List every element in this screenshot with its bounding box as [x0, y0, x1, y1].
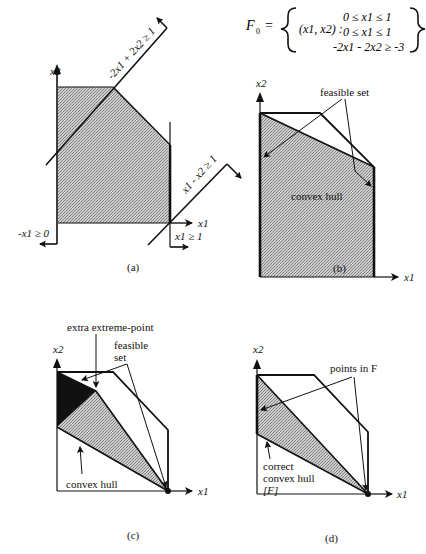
region-a — [58, 87, 170, 223]
caption-a: (a) — [127, 261, 140, 274]
formula-equals: = — [265, 18, 273, 33]
formula-constraint-1: 0 ≤ x1 ≤ 1 — [343, 10, 392, 24]
constraint-label-neg-x1: -x1 ≥ 0 — [18, 227, 50, 239]
left-brace-icon — [281, 8, 296, 52]
panel-b: x2 x1 feasible set convex hull (b) — [255, 77, 414, 283]
panel-a: x2 -x1 ≥ 0 x1 ≥ 1 x1 -2x1 + 2x2 ≥ 1 x1 -… — [18, 18, 241, 274]
label-convex-hull-c: convex hull — [66, 478, 118, 490]
label-convex-hull-b: convex hull — [291, 190, 343, 202]
caption-d: (d) — [325, 532, 338, 545]
panel-c: x2 x1 extra extreme-point feasible set c… — [52, 321, 208, 542]
constraint-label-x1-ge-1: x1 ≥ 1 — [174, 230, 202, 242]
formula-lhs-sub: 0 — [256, 27, 260, 36]
formula-f0: F 0 = (x1, x2) : 0 ≤ x1 ≤ 1 0 ≤ x1 ≤ 1 -… — [245, 8, 425, 54]
right-brace-icon — [410, 8, 425, 52]
formula-lhs: F — [245, 18, 255, 33]
constraint-label-diag: -2x1 + 2x2 ≥ 1 — [105, 25, 158, 82]
figure-canvas: F 0 = (x1, x2) : 0 ≤ x1 ≤ 1 0 ≤ x1 ≤ 1 -… — [0, 0, 426, 554]
formula-constraint-3: -2x1 - 2x2 ≥ -3 — [333, 40, 404, 54]
label-feasible-set-b: feasible set — [320, 86, 369, 98]
axis-label-x1-c: x1 — [197, 485, 208, 497]
arrow-up-icon — [256, 92, 264, 102]
constraint-label-x1-minus-x2: x1 - x2 ≥ 1 — [178, 152, 219, 196]
label-correct-1: correct — [263, 460, 294, 472]
axis-label-x1-b: x1 — [403, 271, 414, 283]
panel-d: x2 x1 points in F correct convex hull [F… — [252, 343, 407, 545]
axis-label-x2-b: x2 — [255, 77, 267, 89]
axis-label-x2-a: x2 — [49, 65, 61, 77]
label-correct-3: [F] — [263, 484, 278, 496]
axis-label-x1-a: x1 — [197, 217, 208, 229]
caption-c: (c) — [127, 529, 140, 542]
caption-b: (b) — [333, 262, 346, 275]
formula-var-tuple: (x1, x2) : — [299, 22, 343, 36]
label-points-in-f: points in F — [330, 362, 377, 374]
axis-label-x2-c: x2 — [52, 343, 64, 355]
axis-label-x2-d: x2 — [252, 343, 264, 355]
formula-constraint-2: 0 ≤ x1 ≤ 1 — [343, 25, 392, 39]
label-feasible-c-1: feasible — [114, 339, 148, 351]
label-extra-extreme-point: extra extreme-point — [67, 321, 153, 333]
axis-label-x1-d: x1 — [396, 488, 407, 500]
label-feasible-c-2: set — [114, 351, 126, 363]
label-correct-2: convex hull — [263, 472, 315, 484]
